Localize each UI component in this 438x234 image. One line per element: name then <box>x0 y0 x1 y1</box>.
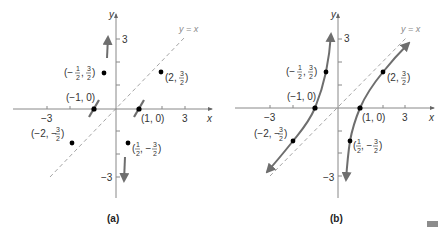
panel-a: y x 3 −3 −3 3 y = x (−1, 0) (1, 0) (− 1 … <box>13 9 213 224</box>
svg-text:3: 3 <box>402 70 406 77</box>
svg-text:(−: (− <box>64 67 73 78</box>
curve-branch-left-b <box>267 34 331 172</box>
point-neghalf-3half-b <box>324 70 329 75</box>
y-axis-label-a: y <box>108 9 115 20</box>
y-ticks-a <box>116 39 120 177</box>
corner-mark <box>427 221 438 227</box>
svg-text:,: , <box>303 66 306 77</box>
y-axis-label-b: y <box>330 9 337 20</box>
point-2-3half-a <box>159 70 164 75</box>
svg-text:, −: , − <box>361 140 373 151</box>
svg-text:3: 3 <box>87 65 91 72</box>
caption-b: (b) <box>330 213 343 224</box>
figure-canvas: y x 3 −3 −3 3 y = x (−1, 0) (1, 0) (− 1 … <box>0 0 438 234</box>
y-tick-neg3-a: −3 <box>101 172 113 183</box>
svg-text:): ) <box>158 143 161 154</box>
label-neg1-0-b: (−1, 0) <box>287 91 316 102</box>
label-2-3half-b: (2, 3 2 ) <box>387 70 410 86</box>
panel-b: y x 3 −3 −3 3 y = x (−1, 0) (1, 0) (− 1 … <box>235 9 435 224</box>
svg-text:1: 1 <box>76 65 80 72</box>
down-arrow-a <box>124 157 125 181</box>
up-arrow-a <box>107 37 108 58</box>
svg-text:(−2, −: (−2, − <box>254 128 280 139</box>
point-neg1-0-b <box>312 105 317 110</box>
point-half-neg3half-b <box>348 139 353 144</box>
svg-text:(−2, −: (−2, − <box>31 128 57 139</box>
point-half-neg3half-a <box>126 141 131 146</box>
asymptote-label-b: y = x <box>400 24 421 34</box>
svg-text:2: 2 <box>56 135 60 142</box>
svg-text:2: 2 <box>76 74 80 81</box>
point-1-0-a <box>136 106 141 111</box>
svg-text:2: 2 <box>279 135 283 142</box>
y-tick-neg3-b: −3 <box>323 172 335 183</box>
point-1-0-b <box>357 105 362 110</box>
svg-text:): ) <box>284 128 287 139</box>
svg-text:): ) <box>314 66 317 77</box>
point-2-3half-b <box>381 70 386 75</box>
x-tick-neg3-b: −3 <box>264 112 276 123</box>
svg-text:(2,: (2, <box>165 72 177 83</box>
point-neghalf-3half-a <box>102 71 107 76</box>
svg-text:2: 2 <box>402 79 406 86</box>
svg-text:2: 2 <box>374 147 378 154</box>
svg-text:2: 2 <box>309 73 313 80</box>
x-tick-3-b: 3 <box>402 112 408 123</box>
svg-text:(2,: (2, <box>387 72 399 83</box>
x-axis-label-b: x <box>428 112 435 123</box>
svg-text:3: 3 <box>279 126 283 133</box>
svg-text:): ) <box>92 67 95 78</box>
point-neg2-neg3half-a <box>70 141 75 146</box>
y-tick-3-a: 3 <box>122 34 128 45</box>
svg-text:3: 3 <box>56 126 60 133</box>
x-tick-3-a: 3 <box>182 113 188 124</box>
y-tick-3-b: 3 <box>344 33 350 44</box>
label-1-0-b: (1, 0) <box>362 112 385 123</box>
svg-text:3: 3 <box>153 141 157 148</box>
svg-text:1: 1 <box>298 64 302 71</box>
svg-text:(−: (− <box>286 66 295 77</box>
label-2-3half-a: (2, 3 2 ) <box>165 70 188 86</box>
svg-text:): ) <box>407 72 410 83</box>
label-neg2-neg3half-a: (−2, − 3 2 ) <box>31 126 64 142</box>
svg-text:, −: , − <box>140 143 152 154</box>
svg-text:): ) <box>379 140 382 151</box>
svg-text:2: 2 <box>180 79 184 86</box>
label-neg1-0-a: (−1, 0) <box>66 92 95 103</box>
svg-text:2: 2 <box>153 150 157 157</box>
label-neghalf-3half-b: (− 1 2 , 3 2 ) <box>286 64 317 80</box>
caption-a: (a) <box>107 213 119 224</box>
svg-text:2: 2 <box>87 74 91 81</box>
svg-text:3: 3 <box>309 64 313 71</box>
label-neg2-neg3half-b: (−2, − 3 2 ) <box>254 126 287 142</box>
label-1-0-a: (1, 0) <box>141 113 164 124</box>
point-neg1-0-a <box>91 106 96 111</box>
svg-text:3: 3 <box>180 70 184 77</box>
svg-text:): ) <box>61 128 64 139</box>
label-neghalf-3half-a: (− 1 2 , 3 2 ) <box>64 65 95 81</box>
svg-text:): ) <box>185 72 188 83</box>
label-half-neg3half-b: ( 1 2 , − 3 2 ) <box>353 138 382 154</box>
point-neg2-neg3half-b <box>291 139 296 144</box>
svg-text:,: , <box>81 67 84 78</box>
x-axis-label-a: x <box>206 113 213 124</box>
svg-text:2: 2 <box>298 73 302 80</box>
x-tick-neg3-a: −3 <box>41 113 53 124</box>
asymptote-label-a: y = x <box>178 24 199 34</box>
svg-text:3: 3 <box>374 138 378 145</box>
label-half-neg3half-a: ) ( 1 2 , − 3 2 ) <box>132 141 161 157</box>
